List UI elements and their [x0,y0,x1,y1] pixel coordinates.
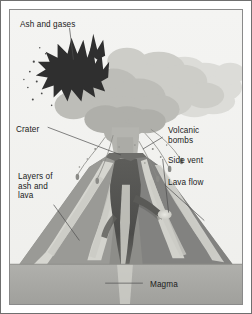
label-side-vent: Side vent [168,156,203,166]
label-lava-flow: Lava flow [168,178,204,188]
figure-page: Ash and gases Crater Layers of ash and l… [0,0,252,314]
volcano-diagram [10,10,242,304]
side-vent-opening [158,210,172,220]
label-layers-of-ash-and-lava: Layers of ash and lava [18,172,53,201]
diagram-frame: Ash and gases Crater Layers of ash and l… [9,9,243,305]
label-ash-and-gases: Ash and gases [20,20,75,30]
label-volcanic-bombs: Volcanic bombs [168,126,199,145]
label-magma: Magma [150,280,178,290]
label-crater: Crater [16,125,39,135]
magma-chamber [10,264,242,304]
